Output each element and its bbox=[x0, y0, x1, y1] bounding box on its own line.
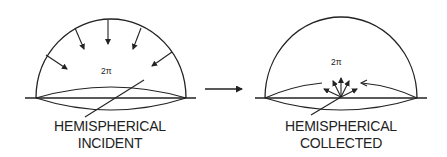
collected-caption-line2: COLLECTED bbox=[300, 135, 382, 151]
incident-arrow-icon bbox=[75, 28, 84, 49]
collected-panel: 2π HEMISPHERICAL COLLECTED bbox=[255, 17, 427, 151]
collected-solid-angle-label: 2π bbox=[331, 57, 342, 67]
hemispherical-geometry-diagram: 2π HEMISPHERICAL INCIDENT 2π HEMISPHERIC… bbox=[0, 0, 447, 157]
collected-caption-line1: HEMISPHERICAL bbox=[285, 118, 397, 134]
collected-sample-ellipse-bottom bbox=[265, 98, 417, 110]
collected-sample-ellipse-top-left bbox=[265, 83, 322, 98]
incident-sample-ellipse-top bbox=[36, 87, 186, 98]
incident-caption-line1: HEMISPHERICAL bbox=[54, 118, 166, 134]
incident-panel: 2π HEMISPHERICAL INCIDENT bbox=[25, 19, 196, 151]
incident-arrow-icon bbox=[152, 52, 172, 66]
incident-sample-ellipse-bottom bbox=[36, 98, 186, 110]
collected-sample-ellipse-top-right bbox=[362, 83, 417, 98]
incident-solid-angle-label: 2π bbox=[101, 66, 112, 76]
incident-arrow-icon bbox=[46, 55, 67, 69]
incident-arrow-icon bbox=[133, 28, 141, 49]
collected-diagonal-line bbox=[311, 97, 341, 115]
incident-caption-line2: INCIDENT bbox=[78, 135, 143, 151]
collected-arrows bbox=[324, 78, 357, 97]
incident-arrows bbox=[46, 20, 172, 69]
